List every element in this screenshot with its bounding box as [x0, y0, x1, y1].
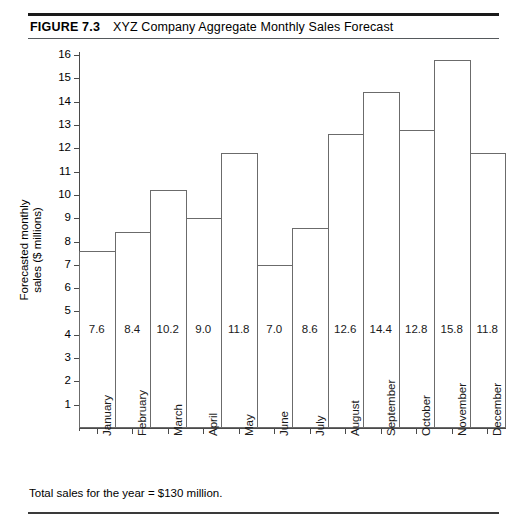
x-tick-mark: [97, 429, 98, 434]
x-tick-mark: [203, 429, 204, 434]
x-tick-mark: [345, 429, 346, 434]
bar: [257, 265, 294, 428]
x-tick-label: February: [137, 390, 149, 436]
y-tick-label: 12: [58, 143, 71, 155]
y-tick-label: 15: [58, 73, 71, 85]
x-tick-mark: [452, 429, 453, 434]
plot-area: 161514131211109876543217.6January8.4Febr…: [79, 55, 505, 428]
y-tick-label: 3: [65, 352, 71, 364]
y-tick-label: 1: [65, 399, 71, 411]
y-axis-title-line1: Forecasted monthly: [18, 185, 31, 315]
y-axis-title-line2: sales ($ millions): [31, 185, 44, 315]
y-tick-label: 11: [59, 166, 71, 178]
bar-value-label: 15.8: [441, 324, 463, 336]
y-tick-label: 14: [58, 96, 71, 108]
bar-value-label: 7.0: [266, 324, 282, 336]
x-tick-label: August: [350, 400, 362, 436]
bar-value-label: 9.0: [195, 324, 211, 336]
y-tick-mark: [74, 242, 79, 243]
y-tick-mark: [74, 78, 79, 79]
y-tick-label: 10: [58, 189, 71, 201]
footer-rule: [28, 512, 499, 514]
y-tick-label: 8: [65, 236, 71, 248]
y-tick-label: 5: [65, 306, 71, 318]
y-tick-label: 4: [65, 329, 71, 341]
bar: [328, 134, 365, 428]
x-tick-mark: [168, 429, 169, 434]
bar-value-label: 14.4: [370, 324, 392, 336]
x-tick-label: April: [208, 413, 220, 436]
x-tick-mark: [274, 429, 275, 434]
y-tick-mark: [74, 125, 79, 126]
bar-value-label: 7.6: [89, 324, 105, 336]
y-tick-mark: [74, 55, 79, 56]
y-tick-label: 16: [58, 49, 71, 61]
x-tick-label: December: [492, 383, 504, 436]
x-tick-label: March: [173, 404, 185, 436]
bar-chart: Forecasted monthly sales ($ millions) 16…: [0, 0, 521, 527]
bar-value-label: 12.8: [405, 324, 427, 336]
y-tick-mark: [74, 195, 79, 196]
x-tick-mark: [239, 429, 240, 434]
y-tick-label: 6: [65, 282, 71, 294]
bar-value-label: 10.2: [157, 324, 179, 336]
x-tick-label: November: [457, 383, 469, 436]
bar: [399, 130, 436, 428]
figure-page: FIGURE 7.3 XYZ Company Aggregate Monthly…: [0, 0, 521, 527]
x-tick-label: May: [244, 414, 256, 436]
bar: [363, 92, 400, 428]
bar-value-label: 11.8: [228, 324, 250, 336]
y-tick-label: 7: [65, 259, 71, 271]
y-axis-title: Forecasted monthly sales ($ millions): [18, 185, 44, 315]
y-tick-label: 2: [65, 376, 71, 388]
x-tick-label: September: [386, 380, 398, 436]
bar-value-label: 11.8: [476, 324, 498, 336]
footer-note: Total sales for the year = $130 million.: [29, 487, 222, 499]
x-tick-mark: [381, 429, 382, 434]
x-tick-mark: [487, 429, 488, 434]
y-tick-mark: [74, 218, 79, 219]
x-tick-mark: [132, 429, 133, 434]
x-tick-label: October: [421, 395, 433, 436]
x-tick-label: January: [102, 395, 114, 436]
y-tick-label: 9: [65, 212, 71, 224]
y-tick-label: 13: [58, 119, 71, 131]
x-tick-label: June: [279, 411, 291, 436]
x-tick-mark: [310, 429, 311, 434]
bar-value-label: 12.6: [334, 324, 356, 336]
bar-value-label: 8.4: [124, 324, 140, 336]
bar: [434, 60, 471, 428]
bar: [150, 190, 187, 428]
y-tick-mark: [74, 172, 79, 173]
bar-value-label: 8.6: [302, 324, 318, 336]
bar: [221, 153, 258, 428]
x-tick-label: July: [315, 416, 327, 436]
y-tick-mark: [74, 148, 79, 149]
x-tick-mark: [416, 429, 417, 434]
y-tick-mark: [74, 102, 79, 103]
